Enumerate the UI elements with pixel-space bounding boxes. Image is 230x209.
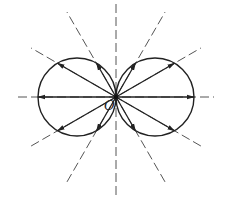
arrow-ray xyxy=(116,97,175,131)
origin-label: O xyxy=(104,98,115,113)
dipole-radiation-diagram xyxy=(0,0,230,209)
arrow-ray xyxy=(116,63,175,97)
arrow-ray xyxy=(58,63,117,97)
